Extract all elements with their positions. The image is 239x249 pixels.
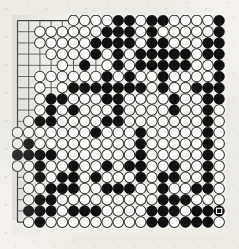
white-stone[interactable] — [46, 172, 57, 183]
black-stone[interactable] — [57, 183, 68, 194]
white-stone[interactable] — [180, 94, 191, 105]
black-stone[interactable] — [135, 150, 146, 161]
white-stone[interactable] — [23, 116, 34, 127]
black-stone[interactable] — [68, 82, 79, 93]
black-stone[interactable] — [23, 150, 34, 161]
white-stone[interactable] — [147, 161, 158, 172]
black-stone[interactable] — [180, 60, 191, 71]
black-stone[interactable] — [68, 161, 79, 172]
white-stone[interactable] — [23, 172, 34, 183]
black-stone[interactable] — [102, 116, 113, 127]
go-board[interactable] — [12, 15, 226, 235]
black-stone[interactable] — [214, 15, 225, 26]
white-stone[interactable] — [214, 116, 225, 127]
white-stone[interactable] — [68, 26, 79, 37]
white-stone[interactable] — [79, 38, 90, 49]
black-stone[interactable] — [91, 38, 102, 49]
white-stone[interactable] — [102, 60, 113, 71]
black-stone[interactable] — [102, 38, 113, 49]
black-stone[interactable] — [203, 82, 214, 93]
black-stone[interactable] — [158, 71, 169, 82]
black-stone[interactable] — [124, 26, 135, 37]
black-stone[interactable] — [23, 206, 34, 217]
black-stone[interactable] — [46, 150, 57, 161]
white-stone[interactable] — [91, 138, 102, 149]
white-stone[interactable] — [124, 150, 135, 161]
black-stone[interactable] — [102, 183, 113, 194]
white-stone[interactable] — [79, 26, 90, 37]
black-stone[interactable] — [91, 82, 102, 93]
white-stone[interactable] — [68, 138, 79, 149]
white-stone[interactable] — [169, 138, 180, 149]
white-stone[interactable] — [191, 94, 202, 105]
white-stone[interactable] — [35, 138, 46, 149]
white-stone[interactable] — [214, 217, 225, 228]
white-stone[interactable] — [46, 127, 57, 138]
white-stone[interactable] — [102, 127, 113, 138]
black-stone[interactable] — [191, 183, 202, 194]
white-stone[interactable] — [147, 138, 158, 149]
white-stone[interactable] — [214, 138, 225, 149]
black-stone[interactable] — [113, 116, 124, 127]
white-stone[interactable] — [124, 138, 135, 149]
black-stone[interactable] — [147, 217, 158, 228]
black-stone[interactable] — [68, 183, 79, 194]
white-stone[interactable] — [124, 127, 135, 138]
black-stone[interactable] — [124, 161, 135, 172]
white-stone[interactable] — [57, 71, 68, 82]
black-stone[interactable] — [135, 82, 146, 93]
white-stone[interactable] — [35, 94, 46, 105]
white-stone[interactable] — [113, 71, 124, 82]
white-stone[interactable] — [191, 161, 202, 172]
white-stone[interactable] — [91, 161, 102, 172]
black-stone[interactable] — [68, 105, 79, 116]
white-stone[interactable] — [191, 138, 202, 149]
white-stone[interactable] — [147, 194, 158, 205]
white-stone[interactable] — [79, 127, 90, 138]
black-stone[interactable] — [214, 60, 225, 71]
black-stone[interactable] — [113, 26, 124, 37]
white-stone[interactable] — [124, 49, 135, 60]
white-stone[interactable] — [191, 105, 202, 116]
white-stone[interactable] — [169, 38, 180, 49]
white-stone[interactable] — [214, 194, 225, 205]
white-stone[interactable] — [147, 105, 158, 116]
white-stone[interactable] — [57, 49, 68, 60]
white-stone[interactable] — [102, 105, 113, 116]
white-stone[interactable] — [124, 194, 135, 205]
white-stone[interactable] — [169, 26, 180, 37]
white-stone[interactable] — [79, 15, 90, 26]
white-stone[interactable] — [46, 217, 57, 228]
white-stone[interactable] — [180, 38, 191, 49]
white-stone[interactable] — [35, 71, 46, 82]
black-stone[interactable] — [68, 206, 79, 217]
white-stone[interactable] — [158, 26, 169, 37]
white-stone[interactable] — [23, 194, 34, 205]
black-stone[interactable] — [180, 194, 191, 205]
white-stone[interactable] — [135, 26, 146, 37]
white-stone[interactable] — [46, 49, 57, 60]
white-stone[interactable] — [135, 105, 146, 116]
black-stone[interactable] — [91, 172, 102, 183]
black-stone[interactable] — [180, 217, 191, 228]
white-stone[interactable] — [135, 71, 146, 82]
black-stone[interactable] — [147, 26, 158, 37]
white-stone[interactable] — [57, 161, 68, 172]
black-stone[interactable] — [169, 105, 180, 116]
white-stone[interactable] — [23, 127, 34, 138]
black-stone[interactable] — [169, 161, 180, 172]
white-stone[interactable] — [91, 183, 102, 194]
white-stone[interactable] — [57, 150, 68, 161]
black-stone[interactable] — [214, 82, 225, 93]
white-stone[interactable] — [91, 116, 102, 127]
white-stone[interactable] — [79, 172, 90, 183]
white-stone[interactable] — [158, 150, 169, 161]
white-stone[interactable] — [35, 82, 46, 93]
black-stone[interactable] — [191, 206, 202, 217]
white-stone[interactable] — [102, 49, 113, 60]
black-stone[interactable] — [158, 15, 169, 26]
white-stone[interactable] — [46, 71, 57, 82]
black-stone[interactable] — [158, 38, 169, 49]
black-stone[interactable] — [147, 206, 158, 217]
white-stone[interactable] — [191, 127, 202, 138]
